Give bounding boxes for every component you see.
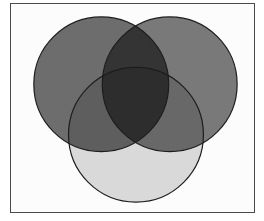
diagram-frame [10,3,255,213]
figure-root [0,0,264,221]
venn-circle-bottom [69,67,204,202]
venn-diagram-svg [11,4,254,212]
